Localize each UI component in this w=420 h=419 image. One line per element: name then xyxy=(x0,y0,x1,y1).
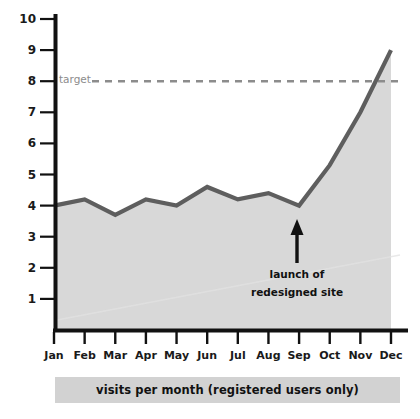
launch-annotation-line-2: redesigned site xyxy=(217,285,377,300)
chart-caption-text: visits per month (registered users only) xyxy=(96,383,359,397)
y-tick-label: 4 xyxy=(14,200,36,212)
y-tick-label: 9 xyxy=(14,44,36,56)
y-tick-label: 2 xyxy=(14,262,36,274)
y-tick-label: 3 xyxy=(14,231,36,243)
y-tick-label: 5 xyxy=(14,169,36,181)
target-line-label: target xyxy=(59,73,91,85)
launch-annotation-line-1: launch of xyxy=(217,267,377,282)
y-tick-label: 7 xyxy=(14,106,36,118)
y-tick-label: 8 xyxy=(14,75,36,87)
visits-per-month-chart: 12345678910 JanFebMarAprMayJunJulAugSepO… xyxy=(0,0,420,419)
y-tick-label: 6 xyxy=(14,137,36,149)
y-tick-label: 10 xyxy=(8,13,36,25)
x-tick-label-dec: Dec xyxy=(371,350,411,362)
x-axis-ticks xyxy=(54,332,391,344)
chart-caption-bar: visits per month (registered users only) xyxy=(55,377,400,403)
y-tick-label: 1 xyxy=(14,293,36,305)
